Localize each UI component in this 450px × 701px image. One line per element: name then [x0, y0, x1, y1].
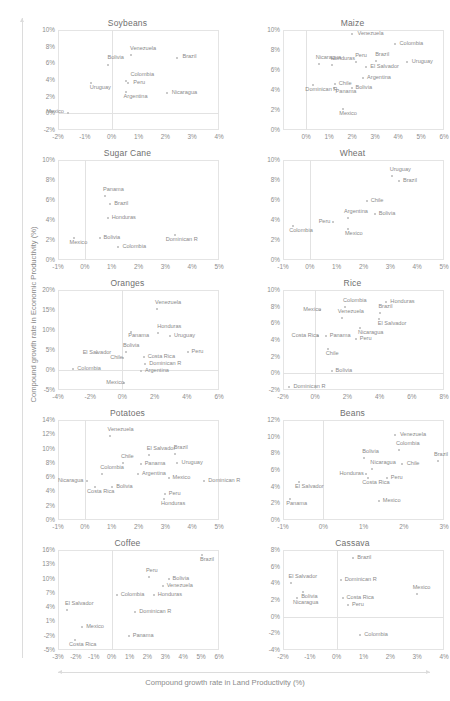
data-point [157, 332, 159, 334]
data-point-label: Colombia [289, 227, 313, 233]
data-point-label: Bolivia [104, 234, 120, 240]
global-x-axis-label: Compound growth rate in Land Productivit… [0, 678, 450, 687]
data-point [66, 609, 68, 611]
data-point-label: Bolivia [301, 593, 317, 599]
panel-title: Soybeans [30, 18, 225, 28]
data-point-label: Chile [110, 354, 123, 360]
x-tick-label: 1% [100, 523, 124, 530]
data-point [168, 477, 170, 479]
data-point [351, 87, 353, 89]
y-tick-label: 2% [257, 353, 280, 360]
panel-title: Cassava [255, 538, 450, 548]
data-point-label: Bolivia [362, 448, 378, 454]
plot-area [58, 420, 219, 520]
x-tick-label: -1% [46, 523, 70, 530]
y-tick-label: 6% [257, 563, 280, 570]
data-point-label: Honduras [340, 470, 364, 476]
data-point-label: Panama [133, 632, 154, 638]
data-point-label: Dominican R [149, 360, 181, 366]
data-point-label: Honduras [158, 591, 182, 597]
data-point [99, 237, 101, 239]
x-tick-label: 0% [298, 263, 322, 270]
data-point-label: Colombia [396, 440, 420, 446]
x-tick-label: 3% [363, 133, 387, 140]
y-tick-label: 2% [257, 596, 280, 603]
data-point-label: Dominican R [208, 477, 240, 483]
panel-title: Potatoes [30, 408, 225, 418]
zero-horizontal-line [283, 617, 444, 618]
data-point-label: Peru [192, 348, 204, 354]
y-tick-label: 4% [257, 579, 280, 586]
data-point [162, 585, 164, 587]
data-point-label: Honduras [331, 55, 355, 61]
y-tick-label: 8% [32, 43, 55, 50]
data-point-label: Brazil [357, 554, 371, 560]
data-point [406, 61, 408, 63]
y-tick-label: -4% [257, 646, 280, 653]
data-point-label: Brazil [434, 451, 448, 457]
y-tick-label: 10% [257, 156, 280, 163]
data-point-label: Honduras [161, 500, 185, 506]
x-tick-label: -2% [46, 133, 70, 140]
y-tick-label: 10% [257, 286, 280, 293]
x-tick-label: 3% [405, 653, 429, 660]
x-tick-label: -1% [298, 653, 322, 660]
data-point-label: Brazil [182, 53, 196, 59]
zero-horizontal-line [283, 373, 444, 374]
data-point-label: Chile [407, 460, 420, 466]
x-tick-label: 4% [368, 393, 392, 400]
y-tick-label: 0% [32, 516, 55, 523]
x-tick-label: 6% [207, 653, 231, 660]
zero-vertical-line [310, 160, 311, 260]
data-point [140, 463, 142, 465]
data-point-label: El Salvador [83, 349, 112, 355]
zero-vertical-line [85, 160, 86, 260]
data-point [398, 180, 400, 182]
data-point [374, 213, 376, 215]
data-point-label: Panama [286, 500, 307, 506]
x-tick-label: -2% [271, 653, 295, 660]
data-point-label: Mexico [345, 230, 363, 236]
scatter-grid: Soybeans-2%-1%0%1%2%3%4%10%8%6%4%2%0%-2%… [0, 0, 450, 701]
data-point-label: Nicaragua [58, 477, 84, 483]
data-point-label: El Salvador [370, 63, 399, 69]
y-tick-label: 8% [257, 303, 280, 310]
x-tick-label: 1% [352, 653, 376, 660]
data-point [334, 83, 336, 85]
data-point [394, 434, 396, 436]
data-point [130, 54, 132, 56]
data-point-label: Peru [133, 79, 145, 85]
data-point-label: Colombia [122, 243, 146, 249]
x-tick-label: 6% [207, 393, 231, 400]
y-tick-label: -2% [257, 386, 280, 393]
x-tick-label: 0% [100, 133, 124, 140]
data-point [144, 363, 146, 365]
data-point-label: Costa Rica [69, 641, 96, 647]
data-point-label: Panama [336, 88, 357, 94]
y-tick-label: 8% [257, 449, 280, 456]
data-point [153, 594, 155, 596]
data-point-label: Panama [145, 460, 166, 466]
y-tick-label: 4% [32, 603, 55, 610]
y-tick-label: 4% [257, 86, 280, 93]
data-point [104, 195, 106, 197]
y-tick-label: 2% [257, 499, 280, 506]
data-point-label: Venezuela [338, 308, 364, 314]
y-tick-label: 0% [257, 126, 280, 133]
data-point-label: Peru [360, 335, 372, 341]
data-point-label: Colombia [364, 631, 388, 637]
x-tick-label: -2% [78, 393, 102, 400]
y-tick-label: 6% [257, 466, 280, 473]
data-point [101, 473, 103, 475]
data-point [340, 579, 342, 581]
y-tick-label: 2% [257, 236, 280, 243]
y-tick-label: 6% [257, 319, 280, 326]
data-point-label: Mexico [70, 239, 88, 245]
panel-title: Rice [255, 278, 450, 288]
x-tick-label: 6% [432, 133, 450, 140]
data-point-label: Mexico [383, 497, 401, 503]
x-tick-label: 5% [432, 263, 450, 270]
y-tick-label: 6% [257, 66, 280, 73]
data-point-label: Peru [169, 490, 181, 496]
y-tick-label: 0% [257, 613, 280, 620]
